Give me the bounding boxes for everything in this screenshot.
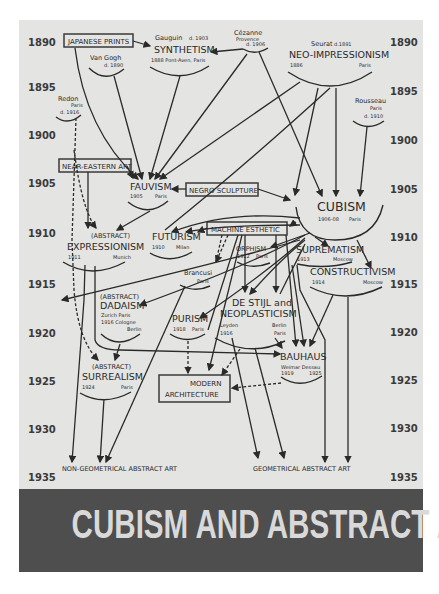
year-label: 1910	[28, 228, 56, 239]
purism-year: 1918	[173, 326, 186, 332]
modern-architecture-label-1: MODERN	[190, 380, 221, 388]
van-gogh-arc	[89, 68, 124, 76]
surrealism-year: 1924	[82, 384, 95, 390]
redon-arc	[56, 115, 81, 121]
artist-cezanne-note: d. 1906	[246, 41, 265, 47]
suprematism-place: Moscow	[333, 256, 353, 262]
de-stijl-arc	[215, 338, 285, 349]
fauvism-place: Paris	[155, 193, 167, 199]
artist-seurat-note: d.1891	[334, 41, 352, 47]
year-label: 1920	[390, 327, 418, 338]
year-label: 1935	[28, 472, 56, 483]
futurism-year: 1910	[152, 244, 165, 250]
expressionism-prefix: (ABSTRACT)	[91, 232, 130, 240]
surrealism-arc	[80, 392, 131, 400]
year-label: 1900	[390, 135, 418, 146]
near-eastern-art-label: NEAR-EASTERN ART	[62, 163, 132, 171]
year-label: 1890	[390, 37, 418, 48]
artist-brancusi: Brancusi	[184, 269, 212, 277]
movement-synthetism: SYNTHETISM	[154, 44, 215, 55]
year-label: 1930	[390, 423, 418, 434]
year-label: 1905	[28, 178, 56, 189]
artist-redon-note: d. 1916	[60, 109, 79, 115]
movement-suprematism: SUPREMATISM	[296, 244, 364, 255]
synthetism-arc	[150, 66, 209, 76]
cubism-place: Paris	[349, 216, 361, 222]
neo-impressionism-year: 1886	[290, 62, 303, 68]
de-stijl-left-2: 1916	[220, 330, 233, 336]
futurism-arc	[150, 252, 192, 259]
bauhaus-arc	[281, 376, 322, 383]
year-label: 1915	[28, 279, 56, 290]
de-stijl-right-2: Paris	[274, 330, 286, 336]
year-label: 1910	[390, 232, 418, 243]
dadaism-places-1: Zurich Paris	[101, 312, 131, 318]
expressionism-year: 1911	[68, 254, 81, 260]
movement-bauhaus: BAUHAUS	[280, 351, 327, 362]
movement-de-stijl: DE STIJL and	[232, 297, 292, 308]
surrealism-place: Paris	[121, 384, 133, 390]
expressionism-place: Munich	[113, 254, 131, 260]
rousseau-arc	[353, 121, 384, 127]
year-label: 1925	[390, 375, 418, 386]
negro-sculpture-label: NEGRO SCULPTURE	[189, 187, 258, 195]
artist-gauguin: Gauguin	[155, 34, 182, 42]
modern-architecture-label-2: ARCHITECTURE	[165, 391, 219, 399]
movement-cubism: CUBISM	[317, 199, 366, 214]
year-label: 1890	[28, 37, 56, 48]
dadaism-arc	[101, 334, 140, 342]
japanese-prints-label: JAPANESE PRINTS	[67, 38, 130, 46]
movement-expressionism: EXPRESSIONISM	[67, 241, 144, 252]
geometrical-abstract-art: GEOMETRICAL ABSTRACT ART	[253, 465, 351, 473]
surrealism-prefix: (ABSTRACT)	[92, 363, 131, 371]
artist-van-gogh: Van Gogh	[90, 54, 121, 62]
year-label: 1905	[390, 184, 418, 195]
year-label: 1900	[28, 130, 56, 141]
dadaism-places-2: 1916 Cologne	[101, 319, 136, 326]
purism-arc	[170, 334, 205, 340]
artist-redon-place: Paris	[71, 102, 83, 108]
fauvism-arc	[128, 201, 168, 210]
artist-rousseau: Rousseau	[355, 97, 386, 105]
year-label: 1935	[390, 472, 418, 483]
title-band: CUBISM AND ABSTRACT ART	[19, 489, 423, 572]
neo-impressionism-place: Paris	[359, 62, 371, 68]
movement-dadaism: DADAISM	[100, 300, 144, 311]
purism-place: Paris	[192, 326, 204, 332]
constructivism-arc	[310, 287, 382, 296]
movement-surrealism: SURREALISM	[82, 371, 143, 382]
synthetism-detail: 1888 Pont-Aven, Paris	[151, 57, 206, 63]
year-label: 1895	[390, 86, 418, 97]
non-geometrical-abstract-art: NON-GEOMETRICAL ABSTRACT ART	[62, 465, 177, 473]
artist-gauguin-note: d. 1903	[189, 35, 208, 41]
de-stijl-left-1: Leyden	[220, 322, 238, 329]
cezanne-arc	[243, 48, 268, 52]
movement-fauvism: FAUVISM	[130, 181, 172, 192]
futurism-place: Milan	[176, 244, 189, 250]
fauvism-year: 1905	[130, 193, 143, 199]
de-stijl-right-1: Berlin	[272, 322, 287, 328]
movement-constructivism: CONSTRUCTIVISM	[310, 266, 395, 277]
timeline-right: 1890 1895 1900 1905 1910 1915 1920 1925 …	[390, 37, 418, 483]
constructivism-place: Moscow	[363, 279, 383, 285]
neo-impressionism-arc	[288, 72, 372, 86]
cubism-year: 1906-08	[318, 216, 339, 222]
bauhaus-year-2: 1925	[309, 370, 322, 376]
cover-title: CUBISM AND ABSTRACT ART	[72, 502, 371, 547]
year-label: 1895	[28, 82, 56, 93]
artist-rousseau-note: d. 1910	[364, 113, 383, 119]
year-label: 1930	[28, 424, 56, 435]
constructivism-year: 1914	[312, 279, 325, 285]
artist-seurat: Seurat	[311, 40, 333, 48]
movement-futurism: FUTURISM	[152, 231, 201, 242]
year-label: 1925	[28, 376, 56, 387]
year-label: 1915	[390, 279, 418, 290]
movement-purism: PURISM	[172, 313, 208, 324]
timeline-left: 1890 1895 1900 1905 1910 1915 1920 1925 …	[28, 37, 56, 483]
bauhaus-year-1: 1919	[281, 370, 294, 376]
dadaism-places-3: Berlin	[127, 326, 142, 332]
artist-van-gogh-note: d. 1890	[104, 62, 123, 68]
movement-neo-impressionism: NEO-IMPRESSIONISM	[289, 49, 389, 60]
movement-neoplasticism: NEOPLASTICISM	[220, 308, 297, 319]
year-label: 1920	[28, 328, 56, 339]
